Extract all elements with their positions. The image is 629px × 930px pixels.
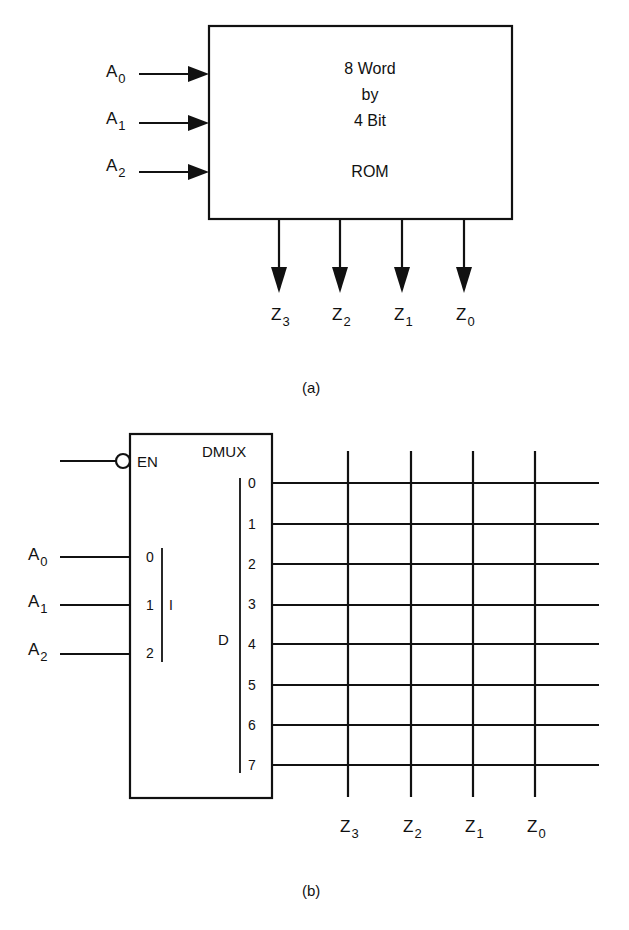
diagram-canvas	[0, 0, 629, 930]
output-pin-0: 0	[248, 476, 256, 490]
rom-diagram	[139, 26, 512, 293]
output-pin-7: 7	[248, 758, 256, 772]
enable-label: EN	[137, 454, 158, 469]
rom-label-line4: ROM	[335, 164, 405, 180]
dmux-output-z0: Z0	[527, 818, 546, 835]
dmux-input-a2: A2	[28, 641, 48, 658]
output-pin-4: 4	[248, 637, 256, 651]
rom-input-a2: A2	[106, 157, 126, 174]
rom-label-line3: 4 Bit	[335, 113, 405, 129]
rom-input-arrows	[139, 66, 209, 180]
inversion-bubble-icon	[116, 454, 130, 468]
rom-output-z0: Z0	[456, 306, 475, 323]
rom-label-line2: by	[335, 87, 405, 103]
input-pin-0: 0	[146, 550, 154, 564]
output-pin-3: 3	[248, 597, 256, 611]
rom-output-z2: Z2	[332, 306, 351, 323]
bit-lines	[348, 451, 535, 797]
rom-output-z3: Z3	[271, 306, 290, 323]
rom-output-z1: Z1	[394, 306, 413, 323]
rom-input-a1: A1	[106, 110, 126, 127]
output-pin-2: 2	[248, 557, 256, 571]
output-pin-1: 1	[248, 517, 256, 531]
output-group-label: D	[218, 632, 229, 647]
dmux-diagram	[60, 434, 599, 798]
input-pin-2: 2	[146, 646, 154, 660]
caption-a: (a)	[302, 380, 320, 395]
rom-input-a0: A0	[106, 63, 126, 80]
word-lines	[272, 483, 599, 765]
dmux-output-z1: Z1	[465, 818, 484, 835]
dmux-title: DMUX	[202, 444, 246, 459]
dmux-output-z2: Z2	[403, 818, 422, 835]
output-pin-6: 6	[248, 718, 256, 732]
input-group-label: I	[169, 598, 173, 612]
rom-label-line1: 8 Word	[335, 61, 405, 77]
output-pin-5: 5	[248, 678, 256, 692]
rom-output-arrows	[271, 219, 472, 293]
dmux-input-a0: A0	[28, 546, 48, 563]
caption-b: (b)	[302, 883, 320, 898]
dmux-output-z3: Z3	[340, 818, 359, 835]
input-pin-1: 1	[146, 598, 154, 612]
dmux-input-a1: A1	[28, 593, 48, 610]
